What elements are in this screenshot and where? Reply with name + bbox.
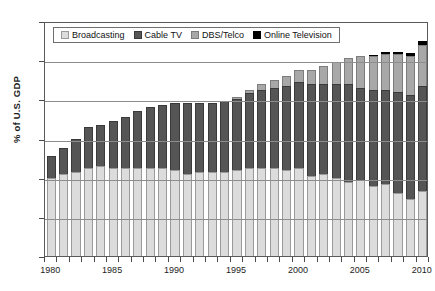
bar-segment-broadcasting: [71, 172, 80, 256]
bar-segment-cable: [183, 103, 192, 174]
bar-segment-cable: [170, 103, 179, 170]
legend-item-cable-tv: Cable TV: [134, 30, 182, 40]
bar-2009: [406, 53, 415, 256]
x-tick-mark: [304, 257, 305, 262]
bar-1996: [245, 90, 254, 256]
bar-segment-broadcasting: [270, 168, 279, 256]
x-tick-mark: [329, 257, 330, 262]
x-tick-label: 1985: [92, 265, 132, 275]
x-tick-mark: [317, 257, 318, 262]
x-tick-mark: [255, 257, 256, 262]
x-tick-mark: [217, 257, 218, 262]
x-tick-mark: [354, 257, 355, 262]
bar-segment-dbs: [270, 80, 279, 88]
bar-segment-cable: [245, 93, 254, 167]
bar-segment-cable: [232, 99, 241, 170]
bar-1980: [47, 156, 56, 256]
legend-label-cable-tv: Cable TV: [145, 30, 182, 40]
bar-1994: [220, 101, 229, 256]
y-axis-title: % of U.S. GDP: [11, 50, 22, 170]
x-tick-label: 2010: [402, 265, 435, 275]
x-tick-mark: [341, 257, 342, 262]
bar-1987: [133, 111, 142, 256]
bar-segment-cable: [208, 103, 217, 172]
bar-segment-broadcasting: [109, 168, 118, 256]
bar-1981: [59, 148, 68, 256]
bar-segment-broadcasting: [121, 168, 130, 256]
x-tick-mark: [391, 257, 392, 262]
bar-segment-cable: [294, 82, 303, 168]
gridline: [45, 62, 427, 63]
x-tick-mark: [131, 257, 132, 262]
y-tick-mark: [39, 22, 44, 23]
bar-segment-broadcasting: [369, 186, 378, 257]
bar-segment-dbs: [319, 66, 328, 84]
bar-2003: [332, 62, 341, 256]
bar-2010: [418, 41, 427, 256]
bar-segment-cable: [406, 95, 415, 199]
bar-segment-cable: [109, 121, 118, 168]
bar-2008: [393, 52, 402, 256]
bar-2002: [319, 66, 328, 256]
bar-2001: [307, 70, 316, 256]
bar-2007: [381, 52, 390, 256]
bar-segment-broadcasting: [133, 168, 142, 256]
bar-segment-broadcasting: [356, 180, 365, 256]
bar-segment-cable: [133, 111, 142, 168]
bar-segment-broadcasting: [319, 174, 328, 256]
x-tick-mark: [366, 257, 367, 262]
bar-segment-broadcasting: [183, 174, 192, 256]
bar-segment-cable: [195, 103, 204, 172]
bar-segment-cable: [319, 84, 328, 174]
x-tick-mark: [416, 257, 417, 262]
y-tick-mark: [39, 218, 44, 219]
bar-segment-cable: [220, 101, 229, 172]
bar-segment-broadcasting: [307, 176, 316, 256]
bar-segment-cable: [121, 117, 130, 168]
y-tick-mark: [39, 140, 44, 141]
x-tick-mark: [205, 257, 206, 262]
gridline: [45, 141, 427, 142]
stacked-bar-chart: % of U.S. GDP 0.0%0.2%0.4%0.6%0.8%1.0%1.…: [0, 0, 435, 291]
bar-1984: [96, 125, 105, 256]
legend-swatch-cable-tv: [134, 31, 142, 39]
bar-segment-dbs: [381, 54, 390, 89]
bar-1988: [146, 107, 155, 256]
bar-segment-broadcasting: [245, 168, 254, 256]
bar-segment-broadcasting: [332, 178, 341, 256]
bar-segment-cable: [369, 90, 378, 186]
bar-1983: [84, 127, 93, 256]
bar-segment-broadcasting: [393, 193, 402, 256]
bar-segment-dbs: [418, 45, 427, 86]
bar-segment-broadcasting: [47, 178, 56, 256]
bar-1999: [282, 76, 291, 256]
x-tick-mark: [56, 257, 57, 262]
bar-1997: [257, 84, 266, 256]
x-tick-mark: [94, 257, 95, 262]
x-tick-mark: [118, 257, 119, 262]
bar-segment-dbs: [294, 70, 303, 82]
legend-label-online-television: Online Television: [264, 30, 332, 40]
bar-segment-cable: [344, 84, 353, 182]
bar-segment-cable: [146, 107, 155, 168]
bar-segment-dbs: [307, 70, 316, 84]
legend-item-online-television: Online Television: [253, 30, 332, 40]
x-tick-mark: [279, 257, 280, 262]
plot-area: [44, 22, 428, 257]
bar-segment-broadcasting: [418, 191, 427, 256]
legend-label-dbs-telco: DBS/Telco: [202, 30, 244, 40]
bar-segment-broadcasting: [195, 172, 204, 256]
bar-segment-cable: [47, 156, 56, 178]
x-tick-label: 2005: [340, 265, 380, 275]
x-tick-mark: [193, 257, 194, 262]
bar-segment-cable: [381, 90, 390, 184]
y-tick-mark: [39, 100, 44, 101]
x-tick-mark: [267, 257, 268, 262]
bar-segment-broadcasting: [158, 168, 167, 256]
bar-segment-broadcasting: [406, 199, 415, 256]
bar-segment-broadcasting: [220, 172, 229, 256]
bar-1995: [232, 97, 241, 256]
bar-1982: [71, 139, 80, 256]
legend-label-broadcasting: Broadcasting: [72, 30, 125, 40]
gridline: [45, 219, 427, 220]
